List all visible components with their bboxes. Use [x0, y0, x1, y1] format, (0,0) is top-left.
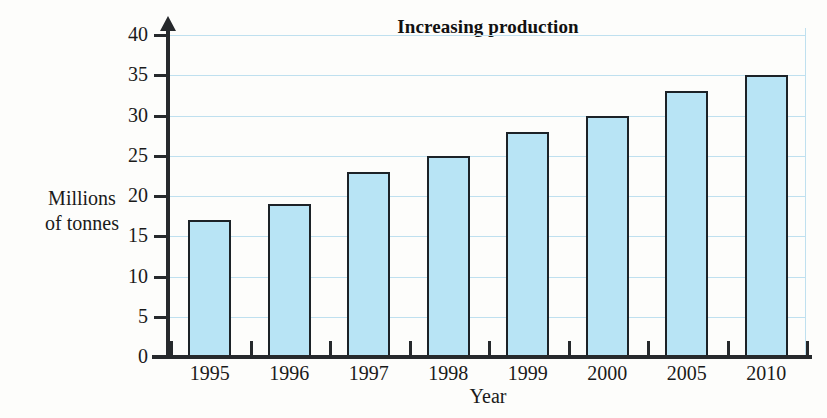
x-axis-tick-label: 1999 — [493, 362, 563, 384]
y-axis-tick — [154, 115, 168, 118]
bar — [427, 156, 470, 357]
y-axis-line — [166, 28, 170, 359]
y-axis-tick — [154, 356, 168, 359]
y-axis-tick — [154, 34, 168, 37]
bar — [586, 116, 629, 358]
x-axis-tick-label: 2010 — [731, 362, 801, 384]
y-axis-tick-label: 40 — [108, 24, 148, 44]
y-axis-tick — [154, 235, 168, 238]
x-axis-tick-label: 1996 — [254, 362, 324, 384]
x-axis-tick-label: 2005 — [652, 362, 722, 384]
y-axis-tick-label: 25 — [108, 145, 148, 165]
bar — [745, 75, 788, 357]
x-axis-tick — [329, 341, 332, 359]
y-axis-tick — [154, 155, 168, 158]
x-axis-tick-label: 2000 — [572, 362, 642, 384]
x-axis-tick-label: 1998 — [413, 362, 483, 384]
bar-chart-figure: Increasing production Millions of tonnes… — [0, 0, 827, 418]
y-axis-tick — [154, 316, 168, 319]
y-axis-tick-label: 5 — [108, 306, 148, 326]
x-axis-tick — [170, 341, 173, 359]
bar — [665, 91, 708, 357]
bar — [188, 220, 231, 357]
y-axis-tick-label: 0 — [108, 346, 148, 366]
x-axis-tick — [568, 341, 571, 359]
y-axis-tick-label: 35 — [108, 64, 148, 84]
bar — [347, 172, 390, 357]
x-axis-tick — [488, 341, 491, 359]
x-axis-tick — [250, 341, 253, 359]
x-axis-tick-label: 1997 — [334, 362, 404, 384]
x-axis-tick — [806, 341, 809, 359]
y-axis-tick-label: 15 — [108, 225, 148, 245]
bars-group — [170, 28, 806, 357]
y-axis-tick — [154, 195, 168, 198]
x-axis-tick — [727, 341, 730, 359]
y-axis-tick — [154, 276, 168, 279]
y-axis-tick — [154, 74, 168, 77]
x-axis-label: Year — [170, 385, 806, 408]
x-axis-tick-label: 1995 — [175, 362, 245, 384]
plot-area — [170, 28, 806, 358]
x-axis-tick — [647, 341, 650, 359]
bar — [268, 204, 311, 357]
y-axis-tick-label: 20 — [108, 185, 148, 205]
y-axis-tick-label: 10 — [108, 266, 148, 286]
x-axis-tick — [409, 341, 412, 359]
y-axis-tick-label: 30 — [108, 105, 148, 125]
bar — [506, 132, 549, 357]
